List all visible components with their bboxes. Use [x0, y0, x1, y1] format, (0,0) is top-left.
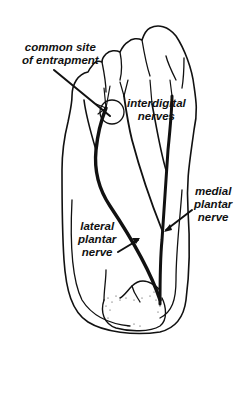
label-common-site-of-entrapment: common site of entrapment	[22, 41, 99, 67]
heel-pad	[103, 298, 166, 331]
label-medial-plantar-nerve: medial plantar nerve	[194, 185, 232, 224]
nerve-branch	[84, 100, 96, 150]
toe-line	[166, 56, 176, 80]
label-interdigital-nerves: interdigital nerves	[127, 97, 186, 123]
inner-contour-lateral	[71, 200, 130, 326]
heel-stipple	[106, 292, 161, 327]
toe-line	[120, 52, 122, 80]
interdigital-branch	[120, 82, 124, 96]
heel-pad-curve	[104, 270, 106, 300]
entrapment-pointer	[54, 70, 110, 116]
interdigital-branch	[106, 86, 110, 108]
toe-line	[142, 40, 150, 76]
nerve-branch	[132, 286, 140, 302]
label-lateral-plantar-nerve: lateral plantar nerve	[78, 220, 116, 259]
medial-plantar-nerve	[160, 96, 172, 304]
toe-line	[182, 58, 184, 88]
lateral-plantar-nerve	[96, 108, 160, 300]
interdigital-branch	[170, 80, 172, 96]
interdigital-branch	[124, 80, 128, 96]
